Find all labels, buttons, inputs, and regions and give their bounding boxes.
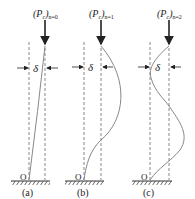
ground-hatch-c xyxy=(132,181,172,185)
panel-a: (Pc)n=0 δ O (a) xyxy=(11,8,58,199)
panel-b: (Pc)n=1 δ O (b) xyxy=(65,8,121,199)
panel-c: (Pc)n=2 δ O (c) xyxy=(132,8,184,199)
buckling-modes-diagram: (Pc)n=0 δ O (a) (Pc)n=1 δ O (b) (Pc)n=2 xyxy=(0,0,195,199)
ground-hatch-b xyxy=(65,181,104,185)
delta-symbol-c: δ xyxy=(155,61,161,73)
delta-symbol-b: δ xyxy=(88,61,94,73)
load-label-c: (Pc)n=2 xyxy=(157,8,182,20)
load-label-a: (Pc)n=0 xyxy=(33,8,58,20)
load-label-b: (Pc)n=1 xyxy=(89,8,114,20)
caption-c: (c) xyxy=(143,187,154,199)
caption-b: (b) xyxy=(77,187,89,199)
caption-a: (a) xyxy=(22,187,33,199)
delta-symbol-a: δ xyxy=(33,62,39,74)
ground-hatch-a xyxy=(11,181,50,185)
